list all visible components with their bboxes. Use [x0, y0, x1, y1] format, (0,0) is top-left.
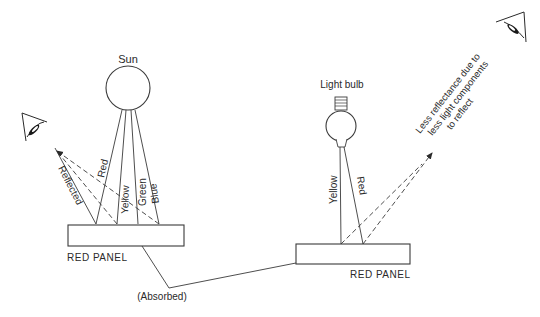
- red-panel-left: [68, 225, 184, 246]
- absorbed-line: [142, 246, 296, 288]
- reflected-ray-bulb-2: [363, 153, 432, 244]
- ray-label-red-bulb: Red: [355, 176, 369, 196]
- red-panel-left-label: RED PANEL: [67, 252, 127, 263]
- absorbed-label: (Absorbed): [137, 291, 186, 302]
- eye-icon: [22, 113, 47, 141]
- eye-icon-right: [496, 12, 526, 42]
- ray-label-red: Red: [95, 158, 110, 178]
- reflected-label: Reflected: [56, 164, 85, 207]
- left-scene: Sun Red Yellow Green Blue Reflected RED …: [22, 53, 184, 263]
- reflectance-annotation: Less reflectance due to less light compo…: [413, 51, 499, 149]
- right-scene: Light bulb Yellow Red Less reflectance d…: [296, 12, 526, 280]
- reflected-ray-bulb-1: [341, 164, 422, 244]
- ray-label-yellow: Yellow: [119, 184, 131, 214]
- light-reflection-diagram: Sun Red Yellow Green Blue Reflected RED …: [0, 0, 540, 317]
- sun-label: Sun: [118, 53, 138, 65]
- ray-label-green: Green: [137, 178, 148, 206]
- sun-icon: [106, 66, 150, 110]
- ray-red-bulb: [344, 147, 363, 244]
- red-panel-right: [296, 244, 410, 264]
- absorbed-connector: (Absorbed): [137, 246, 296, 302]
- light-bulb-label: Light bulb: [320, 79, 364, 90]
- light-bulb-icon: [326, 97, 356, 147]
- ray-yellow-bulb: [340, 147, 341, 244]
- red-panel-right-label: RED PANEL: [350, 269, 410, 280]
- ray-label-blue: Blue: [147, 182, 161, 204]
- ray-label-yellow-bulb: Yellow: [328, 175, 339, 204]
